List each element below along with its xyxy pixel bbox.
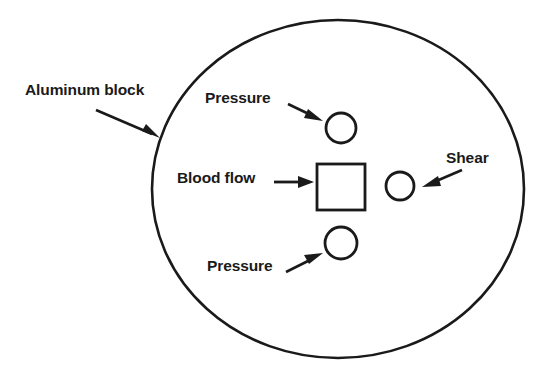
shear-sensor-circle [386, 172, 414, 200]
pressure-top-arrow [288, 104, 323, 121]
pressure-sensor-top-circle [326, 113, 356, 143]
center-square-sensor [317, 164, 365, 210]
label-blood-flow: Blood flow [177, 170, 255, 186]
diagram-graphics [0, 0, 553, 375]
blood-flow-arrow [274, 176, 314, 188]
pressure-bottom-arrow [286, 253, 323, 272]
label-pressure-top: Pressure [205, 90, 271, 106]
shear-arrow [422, 170, 462, 187]
aluminum-block-outline [152, 20, 524, 358]
label-aluminum-block: Aluminum block [25, 82, 144, 98]
pressure-sensor-bottom-circle [325, 227, 357, 259]
label-pressure-bottom: Pressure [207, 258, 273, 274]
label-shear: Shear [446, 150, 489, 166]
diagram-canvas: Aluminum block Pressure Blood flow Shear… [0, 0, 553, 375]
aluminum-block-arrow [96, 110, 160, 138]
